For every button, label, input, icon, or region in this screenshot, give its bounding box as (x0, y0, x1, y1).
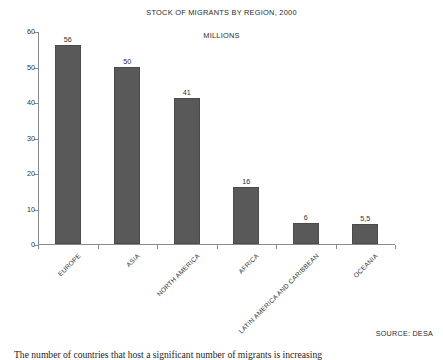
x-axis-tick-mark (336, 245, 337, 249)
y-axis-tick-label: 60 (27, 27, 35, 36)
x-axis-tick-mark (276, 245, 277, 249)
x-axis-category-label: OCEANIA (352, 252, 379, 279)
x-axis-tick-mark (217, 245, 218, 249)
bar-value-label: 41 (183, 88, 191, 97)
y-axis-tick-label: 50 (27, 63, 35, 72)
x-axis-tick-mark (395, 245, 396, 249)
chart-title: STOCK OF MIGRANTS BY REGION, 2000 (0, 8, 443, 17)
y-axis-tick-label: 40 (27, 98, 35, 107)
source-note: SOURCE: DESA (376, 329, 433, 338)
bar: 41 (174, 98, 200, 244)
y-axis-tick-label: 0 (31, 240, 35, 249)
plot-area: 0102030405060 5650411665,5 EUROPEASIANOR… (38, 32, 395, 245)
x-axis-tick-mark (98, 245, 99, 249)
bar: 50 (114, 67, 140, 245)
x-axis-category-label: ASIA (125, 252, 141, 268)
y-axis-tick-label: 10 (27, 205, 35, 214)
y-axis-tick-label: 30 (27, 134, 35, 143)
x-axis-category-label: AFRICA (237, 252, 260, 275)
bar: 6 (293, 223, 319, 244)
x-axis-tick-mark (157, 245, 158, 249)
bar-value-label: 16 (242, 177, 250, 186)
x-axis-category-label: NORTH AMERICA (155, 252, 201, 298)
y-axis-line (38, 32, 39, 245)
bar-value-label: 5,5 (360, 214, 370, 223)
migrant-stock-bar-chart: STOCK OF MIGRANTS BY REGION, 2000 MILLIO… (0, 0, 443, 360)
bar-value-label: 50 (123, 57, 131, 66)
bar-value-label: 56 (64, 35, 72, 44)
x-axis-tick-mark (38, 245, 39, 249)
x-axis-category-label: EUROPE (56, 252, 81, 277)
body-paragraph: The number of countries that host a sign… (14, 349, 439, 360)
bar: 56 (55, 45, 81, 244)
bar: 16 (233, 187, 259, 244)
y-axis-tick-label: 20 (27, 169, 35, 178)
bar: 5,5 (352, 224, 378, 244)
bar-value-label: 6 (304, 213, 308, 222)
